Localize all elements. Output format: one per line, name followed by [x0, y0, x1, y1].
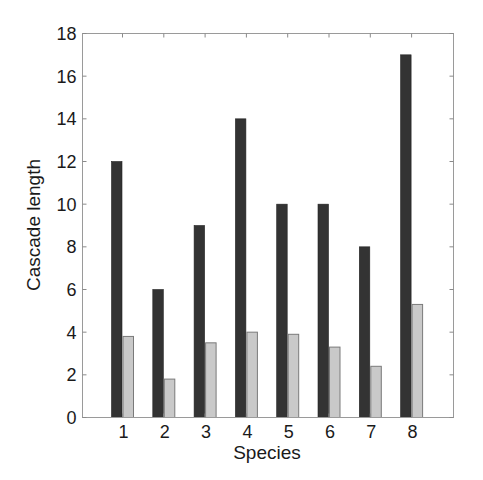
- bar-dark-species-6: [318, 204, 329, 417]
- bar-light-species-3: [206, 343, 217, 418]
- x-tick-label: 8: [408, 422, 418, 442]
- bar-dark-species-3: [194, 226, 205, 418]
- x-tick-label: 6: [325, 422, 335, 442]
- x-axis-title: Species: [233, 442, 301, 463]
- bar-light-species-4: [247, 332, 258, 417]
- bar-dark-species-2: [153, 290, 164, 418]
- y-tick-label: 8: [66, 237, 76, 257]
- x-tick-label: 7: [366, 422, 376, 442]
- x-tick-label: 2: [160, 422, 170, 442]
- y-tick-label: 14: [56, 109, 76, 129]
- x-tick-label: 5: [284, 422, 294, 442]
- y-tick-label: 6: [66, 280, 76, 300]
- bar-dark-species-1: [112, 162, 123, 418]
- y-tick-label: 0: [66, 408, 76, 428]
- bar-dark-species-4: [235, 119, 246, 418]
- bar-dark-species-5: [277, 204, 288, 417]
- y-axis-title: Cascade length: [23, 159, 44, 291]
- bar-light-species-1: [123, 336, 134, 417]
- bars-group: [112, 55, 423, 418]
- y-tick-label: 12: [56, 152, 76, 172]
- bar-light-species-2: [164, 379, 175, 417]
- plot-frame: [83, 34, 454, 418]
- y-tick-label: 16: [56, 67, 76, 87]
- x-tick-label: 4: [242, 422, 252, 442]
- y-tick-label: 10: [56, 195, 76, 215]
- y-tick-label: 18: [56, 24, 76, 44]
- bar-dark-species-8: [401, 55, 412, 418]
- bar-light-species-5: [288, 334, 299, 417]
- bar-light-species-6: [330, 347, 341, 417]
- x-tick-label: 3: [201, 422, 211, 442]
- y-tick-label: 2: [66, 365, 76, 385]
- bar-dark-species-7: [359, 247, 370, 418]
- y-tick-label: 4: [66, 323, 76, 343]
- x-tick-label: 1: [118, 422, 128, 442]
- bar-light-species-7: [371, 366, 382, 417]
- bar-light-species-8: [412, 304, 423, 417]
- bar-chart: 024681012141618 12345678 Species Cascade…: [0, 0, 483, 480]
